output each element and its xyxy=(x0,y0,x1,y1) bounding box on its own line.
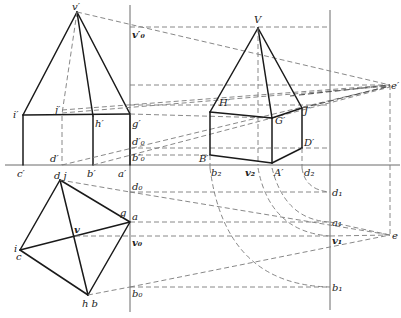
label-a1: a₁ xyxy=(332,217,342,228)
label-d-j: d j xyxy=(54,170,67,181)
label-j-prime: j′ xyxy=(53,104,61,115)
plan-edge-c-d xyxy=(20,180,60,250)
label-h-prime: h′ xyxy=(95,118,104,129)
label-e: e xyxy=(392,230,398,241)
label-b2: b₂ xyxy=(211,167,221,178)
label-c-prime: c′ xyxy=(17,168,26,179)
label-g: g xyxy=(120,207,126,218)
label-g-prime: g′ xyxy=(132,118,141,129)
label-d0: d₀ xyxy=(132,181,142,192)
label-v-prime: v′ xyxy=(72,1,81,12)
label-v2: v₂ xyxy=(245,167,256,178)
edge-B-A xyxy=(210,155,272,163)
label-v0: v₀ xyxy=(132,237,143,248)
edge-v-i xyxy=(23,12,77,115)
sightline-b-e xyxy=(130,235,390,287)
label-b0: b₀ xyxy=(132,288,142,299)
label-J-prime: J′ xyxy=(302,105,311,116)
edge-H-G xyxy=(210,112,272,118)
plan-edge-b-c xyxy=(20,250,88,295)
label-c: c xyxy=(16,251,22,262)
label-b-prime: b′ xyxy=(87,168,96,179)
label-B-prime: B′ xyxy=(198,153,209,164)
perspective-diagram: v′ v′₀ i′ j′ h′ g′ d′₀ b′₀ c′ d′ b′ a′ V… xyxy=(0,0,401,318)
perspective-view xyxy=(210,28,390,165)
label-i-prime: i′ xyxy=(13,109,19,120)
plan-edge-a-b xyxy=(88,222,130,295)
projector-v-e xyxy=(77,12,390,85)
label-b1: b₁ xyxy=(332,282,342,293)
label-d0-prime: d′₀ xyxy=(132,136,145,147)
label-G-prime: G′ xyxy=(275,115,286,126)
edge-A-D xyxy=(272,148,302,163)
label-h-b: h b xyxy=(82,298,98,309)
projector-b-b0 xyxy=(88,287,130,295)
label-H-prime: H′ xyxy=(218,97,231,108)
plan-diag-d-b xyxy=(60,180,88,295)
sightline-d-e xyxy=(130,192,390,235)
label-a: a xyxy=(132,211,138,222)
label-D-prime: D′ xyxy=(303,137,315,148)
label-v1: v₁ xyxy=(332,235,342,246)
label-b0-prime: b′₀ xyxy=(132,152,145,163)
label-v: v xyxy=(74,224,80,235)
label-d1: d₁ xyxy=(332,187,342,198)
label-v0-prime: v′₀ xyxy=(132,29,145,40)
label-A-prime: A′ xyxy=(273,167,284,178)
label-d2: d₂ xyxy=(304,167,314,178)
arc-b2-b1 xyxy=(210,168,330,287)
arc-v2-v1 xyxy=(258,168,330,236)
plan-view xyxy=(20,180,130,295)
label-V: V xyxy=(254,14,263,25)
edge-V-H xyxy=(210,28,258,112)
front-elevation xyxy=(23,12,130,165)
label-e-prime: e′ xyxy=(391,80,400,91)
edge-i-g xyxy=(23,114,130,115)
label-a-prime: a′ xyxy=(118,168,127,179)
label-d-prime: d′ xyxy=(50,153,59,164)
